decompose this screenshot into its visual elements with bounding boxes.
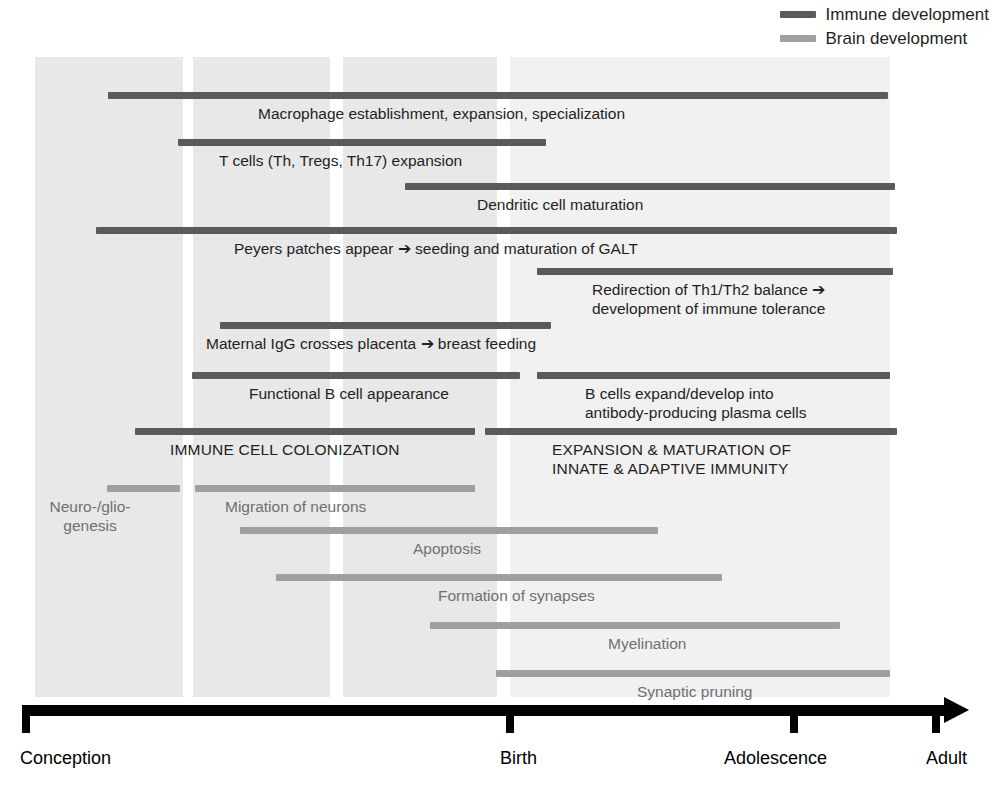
timeline-bar-label: Peyers patches appear ➔ seeding and matu…: [234, 239, 638, 258]
timeline-bar: [496, 670, 890, 677]
timeline-bar-label: Formation of synapses: [438, 586, 595, 605]
timeline-bar: [135, 428, 475, 435]
timeline-bar-label: T cells (Th, Tregs, Th17) expansion: [219, 151, 462, 170]
axis-tick-label: Conception: [20, 747, 111, 769]
timeline-bar: [96, 227, 897, 234]
timeline-bar-label: Macrophage establishment, expansion, spe…: [258, 104, 625, 123]
timeline-bar-label: EXPANSION & MATURATION OF INNATE & ADAPT…: [552, 440, 791, 478]
axis-tick: [790, 705, 798, 733]
timeline-bar-label: Neuro-/glio- genesis: [30, 497, 150, 535]
timeline-bar: [276, 574, 722, 581]
axis-tick: [506, 705, 514, 733]
timeline-bar-label: Redirection of Th1/Th2 balance ➔ develop…: [592, 280, 826, 318]
timeline-bar: [537, 268, 893, 275]
timeline-axis-line: [22, 705, 952, 716]
timeline-bar-label: Dendritic cell maturation: [477, 195, 643, 214]
axis-tick-label: Adolescence: [724, 747, 827, 769]
timeline-axis-arrow-icon: [944, 697, 969, 723]
timeline-bar: [430, 622, 840, 629]
axis-tick-label: Adult: [926, 747, 967, 769]
timeline-bar-label: Myelination: [608, 634, 686, 653]
timeline-bar-label: B cells expand/develop into antibody-pro…: [585, 384, 806, 422]
timeline-bar: [195, 485, 475, 492]
timeline-bar-label: Maternal IgG crosses placenta ➔ breast f…: [206, 334, 536, 353]
axis-tick: [22, 705, 30, 733]
timeline-plot-area: Macrophage establishment, expansion, spe…: [0, 0, 997, 700]
axis-tick-label: Birth: [500, 747, 537, 769]
timeline-bar: [485, 428, 897, 435]
timeline-bar-label: Apoptosis: [413, 539, 481, 558]
timeline-bar: [240, 527, 658, 534]
timeline-bar-label: Functional B cell appearance: [249, 384, 449, 403]
timeline-bar-label: IMMUNE CELL COLONIZATION: [170, 440, 400, 459]
figure-caption-cropped: [0, 790, 997, 804]
timeline-bar: [107, 485, 180, 492]
timeline-bar: [405, 183, 895, 190]
axis-tick: [932, 705, 940, 733]
timeline-bar: [108, 92, 888, 99]
timeline-bar: [537, 372, 890, 379]
timeline-bar: [178, 139, 546, 146]
timeline-bar: [220, 322, 551, 329]
developmental-timeline-chart: Immune development Brain development Mac…: [0, 0, 997, 805]
timeline-bar-label: Synaptic pruning: [637, 682, 752, 701]
timeline-bar-label: Migration of neurons: [225, 497, 366, 516]
timeline-bar: [192, 372, 520, 379]
